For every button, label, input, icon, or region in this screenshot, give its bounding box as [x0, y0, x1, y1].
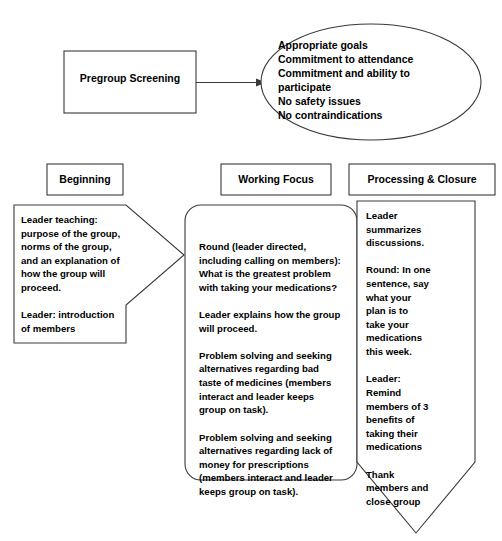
column-body-working-focus: Round (leader directed, including callin… [199, 240, 351, 499]
arrow-right-icon [256, 79, 266, 87]
column-header-processing-closure: Processing & Closure [349, 173, 495, 187]
column-header-working-focus: Working Focus [221, 173, 331, 187]
criteria-list-text: Appropriate goals Commitment to attendan… [278, 39, 468, 123]
column-body-beginning: Leader teaching: purpose of the group, n… [21, 213, 139, 335]
pregroup-screening-label: Pregroup Screening [64, 72, 196, 86]
column-header-beginning: Beginning [47, 173, 123, 187]
diagram-canvas: Pregroup Screening Appropriate goals Com… [0, 0, 502, 541]
column-body-processing-closure: Leader summarizes discussions. Round: In… [366, 209, 448, 508]
